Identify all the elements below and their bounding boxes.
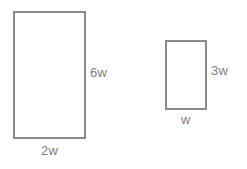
- small-rectangle-width-label: w: [181, 113, 191, 127]
- small-rectangle: [165, 40, 207, 110]
- large-rectangle-width-label: 2w: [41, 144, 58, 158]
- large-rectangle: [13, 11, 86, 139]
- diagram-canvas: 6w 2w 3w w: [0, 0, 247, 169]
- large-rectangle-height-label: 6w: [90, 66, 107, 80]
- small-rectangle-height-label: 3w: [211, 64, 228, 78]
